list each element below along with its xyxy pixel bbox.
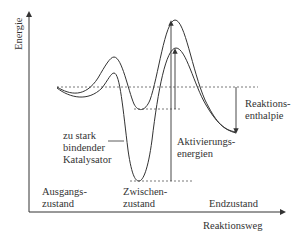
catalyst-label: zu stark bindender Katalysator [63, 130, 111, 166]
intermediate-state-line1: Zwischen- [123, 186, 167, 198]
activation-label-line2: energien [177, 148, 235, 160]
activation-label: Aktivierungs- energien [177, 136, 235, 160]
reaction-curve-upper [57, 20, 236, 132]
catalyst-label-line3: Katalysator [63, 154, 111, 166]
intermediate-state-line2: zustand [123, 198, 167, 210]
enthalpy-label-line1: Reaktions- [245, 98, 291, 110]
intermediate-state-label: Zwischen- zustand [123, 186, 167, 210]
catalyst-label-line1: zu stark [63, 130, 111, 142]
start-state-line2: zustand [42, 198, 87, 210]
enthalpy-label: Reaktions- enthalpie [245, 98, 291, 122]
activation-label-line1: Aktivierungs- [177, 136, 235, 148]
catalyst-label-line2: bindender [63, 142, 111, 154]
start-state-line1: Ausgangs- [42, 186, 87, 198]
y-axis-label: Energie [13, 18, 24, 50]
x-axis-label: Reaktionsweg [203, 220, 263, 232]
start-state-label: Ausgangs- zustand [42, 186, 87, 210]
end-state-label: Endzustand [209, 198, 258, 210]
enthalpy-label-line2: enthalpie [245, 110, 291, 122]
